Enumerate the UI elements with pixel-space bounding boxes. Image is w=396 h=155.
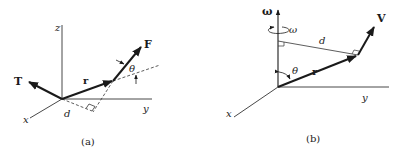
theta-arrow-upper [116,60,124,64]
theta-arc-b [279,72,290,79]
position-label-a: r [83,75,89,86]
velocity-label: V [376,12,386,25]
theta-label-b: θ [292,65,298,76]
rotation-label: ω [289,24,297,35]
rotation-arrow-icon [268,27,289,34]
theta-label-a: θ [129,63,135,74]
distance-line-b [278,41,358,55]
x-axis-a [30,99,62,118]
y-label-a: y [142,103,149,114]
y-label-b: y [361,92,368,103]
torque-vector [29,82,62,99]
force-label: F [144,38,152,51]
caption-a: (a) [81,136,95,147]
right-angle-marker-b1 [278,42,284,46]
x-label-b: x [226,108,232,119]
panel-a: z y x T r F θ d (a) [14,22,160,147]
x-label-a: x [23,114,29,125]
panel-b: ω ω d V r θ y x (b) [226,5,389,144]
omega-axis-label: ω [262,5,273,18]
force-extension-a [93,81,113,112]
caption-b: (b) [306,133,320,144]
right-angle-marker-a [86,104,95,111]
velocity-vector [358,27,374,55]
position-label-b: r [312,66,318,77]
distance-label-a: d [64,108,70,119]
torque-label: T [14,75,23,88]
x-axis-b [234,87,278,117]
z-label-a: z [54,22,61,33]
force-vector [113,47,141,81]
distance-label-b: d [319,35,325,46]
